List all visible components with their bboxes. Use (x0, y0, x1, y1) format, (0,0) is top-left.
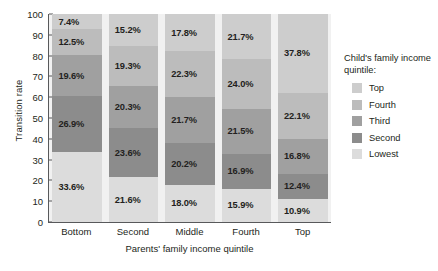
bar-segment-label: 37.8% (278, 48, 310, 58)
bar-segment-lowest[interactable]: 33.6% (52, 152, 102, 222)
legend-items: TopFourthThirdSecondLowest (344, 83, 436, 159)
legend-item-label: Third (369, 116, 390, 126)
legend-swatch-icon (352, 83, 362, 93)
bar-segment-second[interactable]: 12.4% (278, 174, 328, 200)
x-axis-label-fourth: Fourth (221, 226, 271, 237)
legend-item-lowest[interactable]: Lowest (344, 149, 436, 159)
x-axis-title: Parents' family income quintile (48, 243, 331, 254)
bar-segment-label: 12.5% (52, 37, 84, 47)
bar-segment-third[interactable]: 16.8% (278, 139, 328, 174)
bar-segment-label: 22.1% (278, 111, 310, 121)
bar-segment-top[interactable]: 17.8% (165, 14, 215, 51)
legend-item-fourth[interactable]: Fourth (344, 100, 436, 110)
bar-segment-fourth[interactable]: 12.5% (52, 29, 102, 55)
legend-item-label: Top (369, 83, 384, 93)
bar-segment-top[interactable]: 15.2% (109, 14, 159, 46)
plot-area: 1009080706050403020100 7.4%12.5%19.6%26.… (48, 14, 331, 223)
legend-swatch-icon (352, 116, 362, 126)
bar-segment-label: 24.0% (222, 79, 254, 89)
bar-segment-fourth[interactable]: 22.3% (165, 51, 215, 97)
legend-swatch-icon (352, 100, 362, 110)
bar-segment-label: 15.2% (109, 25, 141, 35)
legend-item-label: Fourth (369, 100, 396, 110)
x-axis-label-second: Second (108, 226, 158, 237)
bar-segment-top[interactable]: 37.8% (278, 14, 328, 93)
legend-item-top[interactable]: Top (344, 83, 436, 93)
bar-segment-lowest[interactable]: 15.9% (222, 189, 272, 222)
bar-second[interactable]: 15.2%19.3%20.3%23.6%21.6% (109, 14, 159, 222)
bar-segment-label: 26.9% (52, 119, 84, 129)
y-axis-tick: 10 (32, 196, 49, 207)
legend-item-label: Lowest (369, 149, 398, 159)
bar-segment-label: 16.9% (222, 166, 254, 176)
bar-segment-lowest[interactable]: 18.0% (165, 185, 215, 222)
legend-item-second[interactable]: Second (344, 133, 436, 143)
y-axis-tick: 50 (32, 113, 49, 124)
y-axis-tick: 30 (32, 154, 49, 165)
bar-segment-label: 17.8% (165, 28, 197, 38)
bar-segment-top[interactable]: 21.7% (222, 14, 272, 59)
legend-title: Child's family income quintile: (344, 52, 436, 76)
bar-segment-second[interactable]: 26.9% (52, 96, 102, 152)
y-axis-tick: 80 (32, 50, 49, 61)
bar-group: 7.4%12.5%19.6%26.9%33.6%15.2%19.3%20.3%2… (49, 14, 331, 222)
bar-segment-third[interactable]: 20.3% (109, 86, 159, 128)
bar-segment-label: 12.4% (278, 181, 310, 191)
bar-segment-third[interactable]: 19.6% (52, 55, 102, 96)
bar-middle[interactable]: 17.8%22.3%21.7%20.2%18.0% (165, 14, 215, 222)
y-axis-tick: 100 (27, 9, 49, 20)
bar-segment-label: 7.4% (52, 17, 79, 27)
x-axis-label-middle: Middle (165, 226, 215, 237)
bar-segment-fourth[interactable]: 24.0% (222, 59, 272, 109)
y-axis-tick: 70 (32, 71, 49, 82)
bar-fourth[interactable]: 21.7%24.0%21.5%16.9%15.9% (222, 14, 272, 222)
bar-segment-label: 20.3% (109, 102, 141, 112)
legend-item-third[interactable]: Third (344, 116, 436, 126)
y-axis-tick: 90 (32, 29, 49, 40)
bar-segment-lowest[interactable]: 10.9% (278, 199, 328, 222)
x-axis-tick-labels: BottomSecondMiddleFourthTop (48, 226, 331, 237)
bar-segment-label: 19.3% (109, 61, 141, 71)
bar-segment-fourth[interactable]: 22.1% (278, 93, 328, 139)
bar-segment-top[interactable]: 7.4% (52, 14, 102, 29)
bar-segment-label: 15.9% (222, 200, 254, 210)
bar-segment-label: 19.6% (52, 71, 84, 81)
x-axis-label-top: Top (278, 226, 328, 237)
legend-item-label: Second (369, 133, 401, 143)
chart-figure: Transition rate 1009080706050403020100 7… (0, 0, 438, 271)
legend-swatch-icon (352, 133, 362, 143)
bar-bottom[interactable]: 7.4%12.5%19.6%26.9%33.6% (52, 14, 102, 222)
y-axis-title: Transition rate (13, 51, 24, 171)
bar-segment-fourth[interactable]: 19.3% (109, 46, 159, 86)
bar-top[interactable]: 37.8%22.1%16.8%12.4%10.9% (278, 14, 328, 222)
bar-segment-label: 20.2% (165, 159, 197, 169)
bar-segment-label: 18.0% (165, 198, 197, 208)
bar-segment-label: 16.8% (278, 151, 310, 161)
x-axis-label-bottom: Bottom (51, 226, 101, 237)
bar-segment-label: 21.5% (222, 126, 254, 136)
y-axis-tick: 40 (32, 133, 49, 144)
bar-segment-label: 10.9% (278, 206, 310, 216)
bar-segment-third[interactable]: 21.5% (222, 109, 272, 154)
y-axis-tick: 60 (32, 92, 49, 103)
bar-segment-second[interactable]: 16.9% (222, 154, 272, 189)
bar-segment-label: 22.3% (165, 69, 197, 79)
bar-segment-label: 21.7% (222, 32, 254, 42)
bar-segment-label: 33.6% (52, 182, 84, 192)
bar-segment-label: 21.7% (165, 115, 197, 125)
bar-segment-lowest[interactable]: 21.6% (109, 177, 159, 222)
legend-swatch-icon (352, 149, 362, 159)
legend: Child's family income quintile: TopFourt… (344, 52, 436, 166)
bar-segment-second[interactable]: 23.6% (109, 128, 159, 177)
bar-segment-second[interactable]: 20.2% (165, 143, 215, 185)
bar-segment-label: 21.6% (109, 195, 141, 205)
bar-segment-label: 23.6% (109, 148, 141, 158)
bar-segment-third[interactable]: 21.7% (165, 97, 215, 142)
y-axis-tick: 20 (32, 175, 49, 186)
